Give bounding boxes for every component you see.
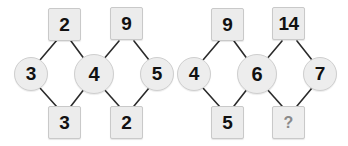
left-square-top-right: 9 (110, 7, 143, 40)
right-square-bottom-left: 5 (211, 106, 244, 139)
edge-l-left-topleft (40, 40, 57, 60)
left-circle-left: 3 (14, 57, 48, 91)
edge-r-center-bottomright (266, 88, 282, 106)
left-square-bottom-right: 2 (110, 106, 143, 139)
edge-r-right-topright (297, 41, 312, 60)
right-circle-right: 7 (303, 57, 337, 91)
edge-l-left-bottomleft (40, 88, 57, 107)
edge-r-left-topleft (203, 40, 220, 60)
edge-r-left-bottomleft (203, 88, 220, 107)
left-circle-right: 5 (140, 57, 174, 91)
edge-r-right-bottomright (297, 88, 312, 106)
left-circle-center: 4 (74, 54, 114, 94)
edge-l-right-topright (134, 41, 149, 60)
puzzle-figure: 2 9 3 2 3 4 5 9 14 5 ? 4 6 7 (0, 0, 348, 146)
right-square-bottom-right-unknown: ? (272, 106, 305, 139)
left-square-bottom-left: 3 (48, 106, 81, 139)
right-square-top-right: 14 (272, 7, 305, 40)
right-circle-left: 4 (177, 57, 211, 91)
left-square-top-left: 2 (48, 8, 81, 41)
edge-l-center-bottomright (103, 88, 119, 106)
right-circle-center: 6 (237, 54, 277, 94)
right-square-top-left: 9 (211, 8, 244, 41)
edge-l-right-bottomright (134, 88, 149, 106)
